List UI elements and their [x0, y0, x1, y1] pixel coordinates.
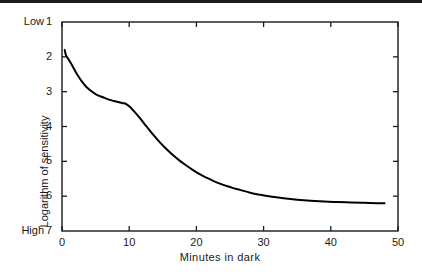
plot-border	[62, 22, 398, 231]
x-axis-ticks	[62, 22, 398, 231]
y-axis-ticks	[62, 57, 398, 196]
y-tick-label: 5	[30, 155, 52, 166]
x-tick-label: 50	[384, 237, 412, 248]
y-tick-label: 6	[30, 190, 52, 201]
x-tick-label: 30	[250, 237, 278, 248]
x-tick-label: 20	[182, 237, 210, 248]
dark-adaptation-curve	[65, 50, 385, 203]
x-axis-title: Minutes in dark	[150, 252, 290, 263]
plot-frame	[62, 22, 398, 231]
dark-adaptation-chart: Low High Logarithm of sensitivity Minute…	[0, 0, 422, 280]
data-series-group	[65, 50, 385, 203]
y-tick-label: 4	[30, 121, 52, 132]
y-tick-label: 1	[30, 16, 52, 27]
x-tick-label: 0	[48, 237, 76, 248]
y-tick-label: 7	[30, 225, 52, 236]
x-tick-label: 40	[317, 237, 345, 248]
y-tick-label: 3	[30, 86, 52, 97]
y-tick-label: 2	[30, 51, 52, 62]
x-tick-label: 10	[115, 237, 143, 248]
